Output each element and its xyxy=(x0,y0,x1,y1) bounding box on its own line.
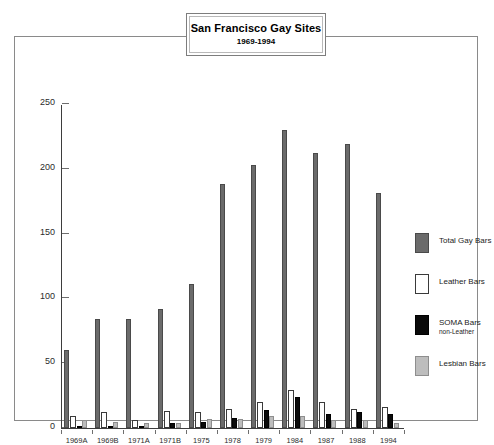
bar xyxy=(257,402,263,428)
x-tick-mark xyxy=(310,430,311,434)
bar-group xyxy=(155,99,186,428)
bar xyxy=(251,165,256,428)
bar xyxy=(195,412,201,428)
bar xyxy=(95,319,100,428)
bar xyxy=(144,423,149,428)
legend-sublabel: non-Leather xyxy=(439,328,474,335)
x-tick-mark xyxy=(61,430,62,434)
bar xyxy=(82,420,87,428)
bar xyxy=(282,130,287,428)
x-tick-label: 1969A xyxy=(66,436,88,445)
bar xyxy=(363,420,368,428)
y-tick-label: 150 xyxy=(40,227,55,237)
x-tick-label: 1971A xyxy=(128,436,150,445)
bar xyxy=(295,397,300,428)
bar xyxy=(345,144,350,428)
bar-group xyxy=(310,99,341,428)
bar xyxy=(158,309,163,428)
x-tick-mark xyxy=(248,430,249,434)
y-tick-label: 250 xyxy=(40,97,55,107)
y-tick-label: 100 xyxy=(40,291,55,301)
bar xyxy=(288,390,294,428)
bar xyxy=(170,423,175,428)
bar-group xyxy=(61,99,92,428)
bar-group xyxy=(186,99,217,428)
bar xyxy=(77,426,82,428)
legend-swatch-lesbian xyxy=(415,356,429,376)
bar xyxy=(113,422,118,428)
y-tick-label: 50 xyxy=(45,356,55,366)
y-tick-label: 200 xyxy=(40,162,55,172)
x-tick-mark xyxy=(404,430,405,434)
legend-label: SOMA Bars xyxy=(439,318,481,327)
chart-title-box-inner: San Francisco Gay Sites 1969-1994 xyxy=(189,16,323,53)
y-tick-label: 0 xyxy=(50,421,55,431)
bar xyxy=(126,319,131,428)
legend-label: Lesbian Bars xyxy=(439,359,486,368)
bar xyxy=(326,414,331,428)
bar xyxy=(264,410,269,428)
x-tick-label: 1988 xyxy=(349,436,366,445)
bar xyxy=(220,184,225,428)
bar xyxy=(139,426,144,428)
x-tick-label: 1978 xyxy=(224,436,241,445)
x-tick-mark xyxy=(217,430,218,434)
bar xyxy=(201,422,206,428)
legend-swatch-leather xyxy=(415,274,429,294)
bar xyxy=(164,411,170,428)
legend-item[interactable]: Total Gay Bars xyxy=(415,233,494,274)
bar xyxy=(226,409,232,428)
bar xyxy=(382,407,388,428)
x-tick-label: 1994 xyxy=(380,436,397,445)
chart-title-box: San Francisco Gay Sites 1969-1994 xyxy=(186,13,326,56)
x-tick-mark xyxy=(186,430,187,434)
bar xyxy=(132,420,138,428)
x-tick-label: 1984 xyxy=(287,436,304,445)
x-tick-label: 1971B xyxy=(159,436,181,445)
legend-label: Leather Bars xyxy=(439,277,485,286)
x-axis-line xyxy=(61,428,404,429)
page-title: San Francisco Gay Sites xyxy=(191,22,322,35)
bar-group xyxy=(248,99,279,428)
x-tick-mark xyxy=(342,430,343,434)
legend-item[interactable]: Lesbian Bars xyxy=(415,356,494,397)
bar-group xyxy=(342,99,373,428)
x-tick-label: 1975 xyxy=(193,436,210,445)
bar xyxy=(319,402,325,428)
chart-frame: 050100150200250 1969A1969B1971A1971B1975… xyxy=(14,36,478,421)
bar xyxy=(189,284,194,428)
x-tick-mark xyxy=(123,430,124,434)
bar xyxy=(269,416,274,428)
legend-item[interactable]: Leather Bars xyxy=(415,274,494,315)
bar xyxy=(70,416,76,428)
x-tick-mark xyxy=(279,430,280,434)
plot-area: 050100150200250 1969A1969B1971A1971B1975… xyxy=(61,99,404,429)
bar xyxy=(357,412,362,428)
bar-group xyxy=(217,99,248,428)
bar-group xyxy=(279,99,310,428)
legend-item[interactable]: SOMA Barsnon-Leather xyxy=(415,315,494,356)
bar xyxy=(331,420,336,428)
bar-group xyxy=(373,99,404,428)
bar-group xyxy=(123,99,154,428)
bar xyxy=(388,414,393,428)
bar xyxy=(300,416,305,428)
x-tick-label: 1969B xyxy=(97,436,119,445)
bar xyxy=(108,426,113,428)
x-tick-mark xyxy=(155,430,156,434)
bar xyxy=(232,418,237,428)
x-tick-label: 1987 xyxy=(318,436,335,445)
legend-swatch-soma xyxy=(415,315,429,335)
bar xyxy=(238,419,243,428)
bar xyxy=(101,412,107,428)
bar xyxy=(394,423,399,428)
chart-subtitle: 1969-1994 xyxy=(237,36,275,47)
bar-group xyxy=(92,99,123,428)
bar xyxy=(313,153,318,428)
bar xyxy=(64,350,69,428)
legend-swatch-total xyxy=(415,233,429,253)
x-tick-mark xyxy=(92,430,93,434)
x-tick-mark xyxy=(373,430,374,434)
bar xyxy=(207,419,212,428)
bar xyxy=(376,193,381,428)
